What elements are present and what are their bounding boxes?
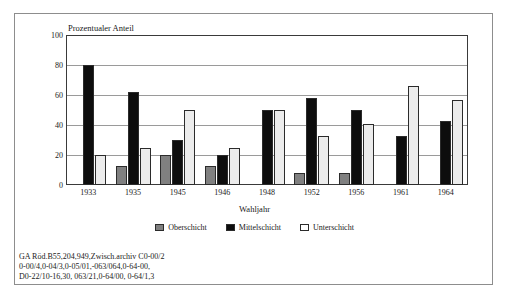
gridline: [67, 65, 467, 66]
y-axis-tick: 60: [17, 91, 63, 100]
y-axis-tick: 0: [17, 181, 63, 190]
x-axis-tick-labels: 193319351945194619481952195619611964: [66, 188, 468, 197]
x-axis-tick: 1933: [66, 188, 111, 197]
legend-swatch-icon: [300, 224, 309, 231]
y-axis-tick: 80: [17, 61, 63, 70]
legend-swatch-icon: [226, 224, 235, 231]
x-axis-title: Wahljahr: [15, 204, 494, 214]
x-axis-tick: 1948: [245, 188, 290, 197]
gridline: [67, 125, 467, 126]
x-axis-tick: 1952: [289, 188, 334, 197]
legend-label: Oberschicht: [168, 223, 207, 232]
bar-chart: Prozentualer Anteil 020406080100 1933193…: [15, 14, 494, 244]
legend-label: Unterschicht: [313, 223, 354, 232]
footnote-line: GA Röd.B55,204,949,Zwisch.archiv C0-00/2: [19, 252, 489, 262]
x-axis-tick: 1961: [379, 188, 424, 197]
y-axis-tick: 100: [17, 31, 63, 40]
legend-item-unterschicht: Unterschicht: [300, 223, 354, 232]
y-axis-tick: 20: [17, 151, 63, 160]
gridline: [67, 95, 467, 96]
x-axis-tick: 1935: [111, 188, 156, 197]
x-axis-tick: 1956: [334, 188, 379, 197]
plot-area: [66, 35, 468, 185]
legend-item-mittelschicht: Mittelschicht: [226, 223, 281, 232]
x-axis-tick: 1946: [200, 188, 245, 197]
chart-legend: OberschichtMittelschichtUnterschicht: [15, 223, 494, 232]
y-axis-tick-labels: 020406080100: [15, 35, 63, 185]
footnote-text: GA Röd.B55,204,949,Zwisch.archiv C0-00/2…: [19, 252, 489, 283]
legend-item-oberschicht: Oberschicht: [155, 223, 207, 232]
footnote-line: D0-22/10-16,30, 063/21,0-64/00, 0-64/1,3: [19, 272, 489, 282]
y-axis-title: Prozentualer Anteil: [68, 23, 134, 33]
footnote-line: 0-00/4,0-04/3,0-05/01,-063/064,0-64-00,: [19, 262, 489, 272]
gridline: [67, 155, 467, 156]
x-axis-tick: 1964: [423, 188, 468, 197]
figure-frame: Prozentualer Anteil 020406080100 1933193…: [14, 13, 493, 285]
y-axis-tick: 40: [17, 121, 63, 130]
x-axis-tick: 1945: [155, 188, 200, 197]
legend-swatch-icon: [155, 224, 164, 231]
legend-label: Mittelschicht: [239, 223, 281, 232]
